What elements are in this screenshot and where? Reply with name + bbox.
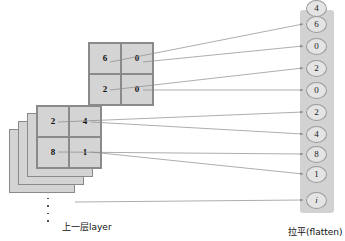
front-feature-map-grid: 2 4 8 1	[36, 105, 102, 169]
flatten-node: 0	[306, 82, 327, 99]
flatten-caption: 拉平(flatten)	[288, 225, 343, 238]
flatten-diagram: 6 0 2 0 2 4 8 1 6 0 2 0 2 4 4 8 1 i	[0, 0, 345, 241]
grid-cell: 4	[69, 106, 101, 137]
flatten-node: 6	[306, 16, 327, 33]
flatten-node: 1	[306, 166, 327, 183]
grid-cell: 0	[121, 43, 153, 74]
previous-layer-caption: 上一层layer	[62, 220, 112, 233]
flatten-node: 2	[306, 60, 327, 77]
grid-cell: 8	[37, 137, 69, 168]
grid-cell: 1	[69, 137, 101, 168]
grid-cell: 2	[37, 106, 69, 137]
flatten-node: 4	[306, 126, 327, 143]
flatten-node: 0	[306, 38, 327, 55]
flatten-node: 8	[306, 146, 327, 163]
flatten-node: 2	[306, 104, 327, 121]
grid-cell: 2	[89, 74, 121, 105]
top-feature-map-grid: 6 0 2 0	[88, 42, 154, 106]
flatten-node-i: i	[306, 192, 327, 209]
grid-cell: 0	[121, 74, 153, 105]
stack-ellipsis-icon	[47, 190, 49, 222]
flatten-node: 4	[306, 0, 327, 17]
grid-cell: 6	[89, 43, 121, 74]
